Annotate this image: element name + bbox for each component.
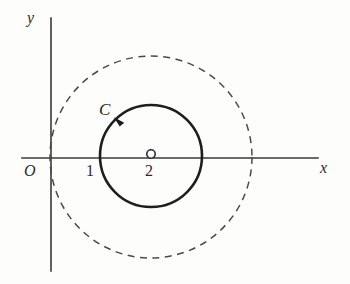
diagram-svg xyxy=(0,0,350,284)
contour-label-c: C xyxy=(99,101,110,118)
tick-label-2: 2 xyxy=(145,163,153,179)
tick-label-1: 1 xyxy=(86,163,94,179)
origin-label: O xyxy=(24,163,36,179)
x-axis-label: x xyxy=(320,160,327,176)
center-point-marker-icon xyxy=(147,150,155,158)
contour-direction-arrow-icon xyxy=(114,117,124,126)
figure-canvas: y x O 1 2 C xyxy=(0,0,350,284)
y-axis-label: y xyxy=(27,10,34,26)
